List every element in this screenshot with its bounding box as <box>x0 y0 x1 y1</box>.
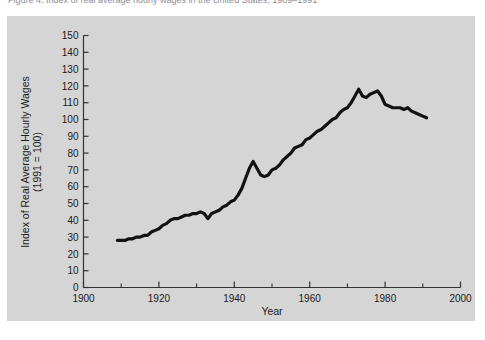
chart-axes <box>84 36 461 288</box>
line-chart: 0102030405060708090100110120130140150 19… <box>7 16 475 321</box>
y-tick-label: 150 <box>62 30 79 41</box>
y-tick-label: 70 <box>67 165 79 176</box>
y-tick-label: 80 <box>67 148 79 159</box>
y-tick-label: 90 <box>67 131 79 142</box>
y-axis-ticks: 0102030405060708090100110120130140150 <box>62 30 89 293</box>
y-tick-label: 10 <box>67 265 79 276</box>
x-axis-title: Year <box>261 305 283 317</box>
x-tick-label: 1920 <box>148 293 171 304</box>
y-tick-label: 120 <box>62 81 79 92</box>
y-tick-label: 60 <box>67 181 79 192</box>
x-tick-label: 1960 <box>299 293 322 304</box>
y-tick-label: 140 <box>62 47 79 58</box>
x-tick-label: 2000 <box>449 293 472 304</box>
y-axis-title-line2: (1991 = 100) <box>31 132 43 192</box>
figure-caption-text: Figure 4. Index of real average hourly w… <box>8 0 448 5</box>
y-tick-label: 50 <box>67 198 79 209</box>
figure-container: Figure 4. Index of real average hourly w… <box>0 0 485 340</box>
y-tick-label: 110 <box>63 97 79 108</box>
x-axis-ticks: 190019201940196019802000 <box>72 282 472 304</box>
wage-index-line <box>117 89 426 240</box>
y-tick-label: 30 <box>67 232 79 243</box>
y-axis-title-line1: Index of Real Average Hourly Wages <box>19 76 31 248</box>
y-tick-label: 0 <box>73 282 79 293</box>
x-tick-label: 1980 <box>374 293 397 304</box>
chart-panel: 0102030405060708090100110120130140150 19… <box>7 16 475 321</box>
x-tick-label: 1940 <box>223 293 246 304</box>
figure-caption: Figure 4. Index of real average hourly w… <box>8 0 448 6</box>
y-tick-label: 20 <box>67 249 79 260</box>
y-tick-label: 40 <box>67 215 79 226</box>
x-tick-label: 1900 <box>72 293 95 304</box>
y-tick-label: 130 <box>62 64 79 75</box>
y-axis-title: Index of Real Average Hourly Wages (1991… <box>19 76 43 248</box>
y-tick-label: 100 <box>62 114 79 125</box>
